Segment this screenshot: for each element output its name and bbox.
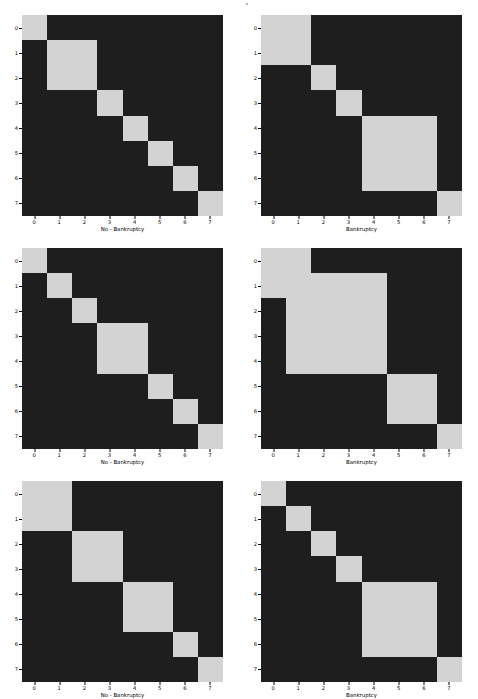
tick-mark (258, 311, 261, 312)
tick-mark (258, 128, 261, 129)
heatmap-cell (22, 399, 47, 424)
y-tick-label: 1 (15, 515, 18, 522)
heatmap-cell (412, 374, 437, 399)
heatmap-cell (387, 166, 412, 191)
heatmap-cell (286, 481, 311, 506)
heatmap-cell (412, 141, 437, 166)
heatmap-cell (97, 399, 122, 424)
heatmap-cell (123, 399, 148, 424)
tick-mark (19, 569, 22, 570)
y-tick-label: 0 (15, 490, 18, 497)
heatmap-cell (286, 90, 311, 115)
heatmap-cell (22, 15, 47, 40)
heatmap-cell (72, 481, 97, 506)
heatmap-cell (387, 506, 412, 531)
heatmap-cell (311, 607, 336, 632)
heatmap-cell (47, 323, 72, 348)
tick-mark (19, 644, 22, 645)
heatmap-cell (311, 90, 336, 115)
heatmap-cell (362, 298, 387, 323)
heatmap-cell (198, 323, 223, 348)
heatmap-cell (437, 607, 462, 632)
heatmap-cell (412, 65, 437, 90)
heatmap-cell (22, 273, 47, 298)
heatmap-cell (387, 424, 412, 449)
heatmap-cell (97, 90, 122, 115)
x-axis-label: Bankruptcy (261, 225, 462, 233)
heatmap-cell (97, 657, 122, 682)
heatmap-cell (173, 65, 198, 90)
heatmap-cell (387, 116, 412, 141)
heatmap-cell (362, 15, 387, 40)
heatmap-cell (173, 40, 198, 65)
heatmap-cell (123, 323, 148, 348)
heatmap-cell (123, 116, 148, 141)
heatmap-cell (286, 323, 311, 348)
heatmap-cell (148, 657, 173, 682)
heatmap-cell (336, 65, 361, 90)
heatmap-axes (22, 248, 223, 449)
y-tick-label: 7 (254, 666, 257, 673)
y-tick-label: 7 (15, 666, 18, 673)
heatmap-cell (261, 298, 286, 323)
tick-mark (19, 103, 22, 104)
heatmap-cell (261, 15, 286, 40)
heatmap-cell (336, 531, 361, 556)
heatmap-cell (311, 248, 336, 273)
heatmap-cell (97, 531, 122, 556)
heatmap-cell (123, 481, 148, 506)
heatmap-cell (47, 273, 72, 298)
heatmap-cells (261, 15, 462, 216)
heatmap-cell (311, 191, 336, 216)
heatmap-cell (123, 65, 148, 90)
y-tick-label: 0 (254, 257, 257, 264)
heatmap-cell (362, 191, 387, 216)
heatmap-cell (412, 399, 437, 424)
tick-mark (258, 78, 261, 79)
heatmap-cell (22, 582, 47, 607)
y-tick-label: 7 (15, 433, 18, 440)
heatmap-cell (311, 323, 336, 348)
heatmap-cell (286, 374, 311, 399)
heatmap-cell (387, 298, 412, 323)
heatmap-cell (412, 298, 437, 323)
heatmap-axes (261, 15, 462, 216)
y-axis-ticks: 01234567 (249, 248, 261, 449)
heatmap-cell (311, 349, 336, 374)
tick-mark (19, 544, 22, 545)
y-tick-label: 5 (254, 616, 257, 623)
tick-mark (19, 669, 22, 670)
y-tick-label: 4 (15, 358, 18, 365)
heatmap-cell (22, 349, 47, 374)
tick-mark (19, 386, 22, 387)
y-tick-label: 3 (15, 99, 18, 106)
heatmap-cell (261, 323, 286, 348)
heatmap-cell (72, 116, 97, 141)
heatmap-cell (261, 399, 286, 424)
heatmap-cell (72, 323, 97, 348)
y-tick-label: 4 (254, 591, 257, 598)
heatmap-cell (437, 632, 462, 657)
heatmap-cell (148, 141, 173, 166)
y-tick-label: 6 (15, 641, 18, 648)
heatmap-cell (173, 506, 198, 531)
tick-mark (19, 494, 22, 495)
heatmap-cell (22, 374, 47, 399)
heatmap-cell (412, 556, 437, 581)
heatmap-cell (286, 116, 311, 141)
heatmap-cell (261, 374, 286, 399)
heatmap-cell (311, 166, 336, 191)
heatmap-cell (148, 582, 173, 607)
heatmap-cell (412, 40, 437, 65)
heatmap-cell (148, 248, 173, 273)
heatmap-cell (336, 166, 361, 191)
heatmap-cell (261, 141, 286, 166)
heatmap-cell (123, 141, 148, 166)
heatmap-cell (148, 15, 173, 40)
heatmap-cell (47, 374, 72, 399)
heatmap-cell (198, 65, 223, 90)
matrix-panel-3: 0123456701234567Bankruptcy (239, 233, 478, 466)
heatmap-cell (311, 582, 336, 607)
y-tick-label: 3 (254, 99, 257, 106)
heatmap-cell (261, 191, 286, 216)
